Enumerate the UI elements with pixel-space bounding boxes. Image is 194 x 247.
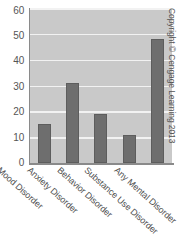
y-axis: 60 50 40 30 20 10 0 (0, 0, 27, 165)
bar-mood-disorder (38, 124, 51, 163)
y-tick-label-60: 60 (0, 6, 24, 16)
y-tick-label-50: 50 (0, 31, 24, 41)
bar-chart-figure: 60 50 40 30 20 10 0 Mood Disorder Anxiet… (0, 0, 194, 247)
bar-slot (115, 8, 143, 163)
bar-substance-use-disorder (123, 135, 136, 163)
bar-anxiety-disorder (66, 83, 79, 163)
x-axis: Mood Disorder Anxiety Disorder Behavior … (0, 163, 194, 247)
y-tick-label-30: 30 (0, 82, 24, 92)
bar-slot (30, 8, 58, 163)
plot-area (29, 8, 172, 163)
x-tick-label-anxiety-disorder: Anxiety Disorder (25, 165, 80, 216)
bar-behavior-disorder (94, 114, 107, 163)
y-tick-label-40: 40 (0, 56, 24, 66)
y-tick-label-20: 20 (0, 107, 24, 117)
y-tick-label-10: 10 (0, 133, 24, 143)
bar-slot (87, 8, 115, 163)
bar-series (30, 8, 172, 163)
bar-slot (58, 8, 86, 163)
copyright-notice: Copyright © Cengage Learning 2013 (160, 8, 176, 143)
